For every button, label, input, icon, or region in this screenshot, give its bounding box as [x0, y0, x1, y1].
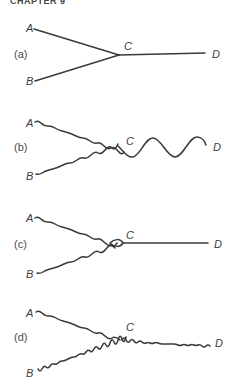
- feynman-diagram-figure: (a) A B C D (b) A B C D (c) A B C D (d) …: [0, 0, 233, 388]
- node-label-b: B: [26, 268, 33, 280]
- line-a-c: [34, 29, 119, 55]
- panel-label-d: (d): [14, 331, 27, 343]
- node-label-b: B: [26, 170, 33, 182]
- node-label-c: C: [124, 40, 132, 52]
- node-label-a: A: [25, 212, 33, 224]
- panel-c: (c) A B C D: [14, 212, 222, 280]
- node-label-a: A: [25, 117, 33, 129]
- node-label-d: D: [213, 141, 221, 153]
- tight-wave-c-d: [122, 338, 210, 347]
- panel-a: (a) A B C D: [14, 22, 220, 87]
- wavy-line-a-c: [35, 217, 115, 248]
- node-label-d: D: [215, 337, 223, 349]
- line-b-c: [35, 55, 119, 81]
- node-label-c: C: [126, 135, 134, 147]
- line-c-d: [119, 53, 205, 55]
- wavy-line-b-c: [36, 144, 118, 174]
- node-label-b: B: [26, 367, 33, 379]
- panel-label-c: (c): [14, 238, 27, 250]
- wavy-line-a-c: [36, 311, 120, 340]
- wavy-line-b-c: [37, 243, 117, 273]
- node-label-a: A: [25, 307, 33, 319]
- panel-label-b: (b): [14, 141, 27, 153]
- node-label-a: A: [25, 22, 33, 34]
- panel-label-a: (a): [14, 48, 27, 60]
- node-label-c: C: [126, 229, 134, 241]
- wavy-line-a-c: [35, 121, 124, 154]
- node-label-b: B: [26, 75, 33, 87]
- tight-wavy-line-b-c: [38, 336, 126, 371]
- node-label-c: C: [126, 321, 134, 333]
- panel-d: (d) A B C D: [14, 307, 223, 379]
- node-label-d: D: [214, 238, 222, 250]
- node-label-d: D: [212, 48, 220, 60]
- panel-b: (b) A B C D: [14, 117, 221, 182]
